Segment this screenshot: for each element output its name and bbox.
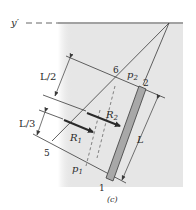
fluid-region-fade	[58, 24, 72, 187]
point-5-label: 5	[44, 148, 50, 158]
dim-l-third	[37, 112, 45, 135]
point-6-label: 6	[113, 65, 119, 75]
caption: (c)	[107, 195, 118, 204]
point-2-label: 2	[143, 78, 149, 88]
hydrostatic-plate-diagram: y′ L/2 L/3 L 6 2 5 1 p2 p1 R2 R1 (c)	[0, 0, 196, 210]
y-prime-label: y′	[10, 17, 20, 28]
point-1-label: 1	[99, 183, 105, 193]
dim-l-half-label: L/2	[40, 71, 56, 82]
dim-l-label: L	[136, 134, 144, 145]
dim-l-third-label: L/3	[19, 118, 35, 129]
